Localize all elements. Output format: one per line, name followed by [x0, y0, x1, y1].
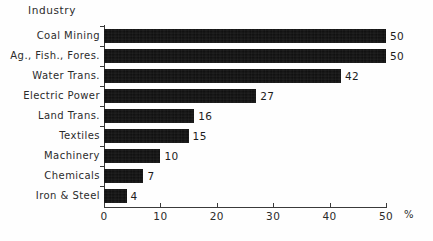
bar-value-label: 4 [131, 189, 138, 203]
bar [104, 129, 189, 143]
y-axis-tick [100, 26, 105, 27]
bar [104, 29, 386, 43]
x-axis-line [104, 207, 387, 208]
bar [104, 189, 127, 203]
bar-value-label: 50 [390, 49, 404, 63]
x-axis-tick [330, 203, 331, 208]
category-label: Chemicals [0, 170, 100, 181]
y-axis-tick [100, 86, 105, 87]
bar-value-label: 27 [260, 89, 274, 103]
x-axis-tick [273, 203, 274, 208]
plot-area: 5050422716151074 [104, 26, 386, 207]
category-label: Land Trans. [0, 110, 100, 121]
bar-row: 16 [104, 106, 386, 126]
bar [104, 149, 160, 163]
bar-row: 10 [104, 146, 386, 166]
category-label: Coal Mining [0, 30, 100, 41]
bar-chart-figure: Industry Coal MiningAg., Fish., Fores.Wa… [0, 0, 433, 241]
bar [104, 69, 341, 83]
y-axis-tick [100, 46, 105, 47]
y-axis-tick [100, 146, 105, 147]
bar-row: 4 [104, 186, 386, 206]
bar-row: 42 [104, 66, 386, 86]
category-label: Iron & Steel [0, 190, 100, 201]
x-axis-tick [386, 203, 387, 208]
x-axis-tick-label: 30 [266, 210, 280, 222]
bar-value-label: 15 [193, 129, 207, 143]
y-axis-tick [100, 66, 105, 67]
x-axis-tick [104, 203, 105, 208]
x-axis-tick [160, 203, 161, 208]
bar-value-label: 7 [147, 169, 154, 183]
bar-value-label: 16 [198, 109, 212, 123]
y-axis-tick [100, 166, 105, 167]
bar [104, 169, 143, 183]
y-axis-tick [100, 106, 105, 107]
bar-row: 50 [104, 26, 386, 46]
bar-value-label: 50 [390, 29, 404, 43]
x-axis-unit-label: % [404, 209, 414, 220]
category-axis-labels: Coal MiningAg., Fish., Fores.Water Trans… [0, 26, 100, 207]
bar-row: 50 [104, 46, 386, 66]
x-axis-tick-label: 50 [379, 210, 393, 222]
bar-value-label: 42 [345, 69, 359, 83]
x-axis-tick-label: 0 [100, 210, 107, 222]
bar [104, 89, 256, 103]
category-label: Machinery [0, 150, 100, 161]
x-axis-tick [217, 203, 218, 208]
category-label: Ag., Fish., Fores. [0, 50, 100, 61]
category-label: Electric Power [0, 90, 100, 101]
x-axis-tick-label: 40 [323, 210, 337, 222]
x-axis-tick-label: 10 [153, 210, 167, 222]
bar-row: 15 [104, 126, 386, 146]
bar [104, 49, 386, 63]
bar [104, 109, 194, 123]
y-axis-tick [100, 126, 105, 127]
bar-value-label: 10 [164, 149, 178, 163]
x-axis-tick-label: 20 [210, 210, 224, 222]
category-label: Water Trans. [0, 70, 100, 81]
y-axis-tick [100, 186, 105, 187]
bar-row: 7 [104, 166, 386, 186]
chart-title: Industry [28, 4, 76, 16]
category-label: Textiles [0, 130, 100, 141]
bar-row: 27 [104, 86, 386, 106]
